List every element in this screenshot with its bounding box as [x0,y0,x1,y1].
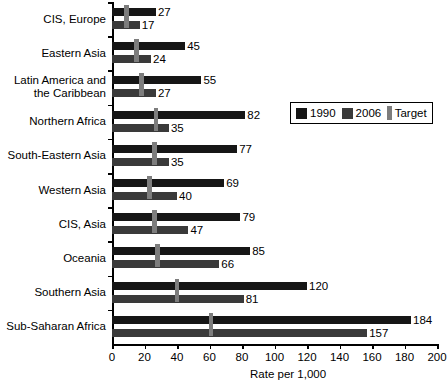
bar-1990: 85 [112,247,250,255]
category-row: CIS, Europe2717 [112,2,437,36]
bar-2006: 157 [112,329,367,337]
bar-value-1990: 79 [242,211,255,223]
category-label: South-Eastern Asia [0,139,106,173]
x-axis-tick-label: 200 [427,351,446,364]
x-axis-tick-label: 100 [265,351,284,364]
legend-item-target: Target [387,106,426,120]
category-label-line: Northern Africa [29,115,106,128]
category-label: Western Asia [0,173,106,207]
y-axis-tick [108,105,113,107]
category-row: Southern Asia12081 [112,276,437,310]
category-label-line: Sub-Saharan Africa [6,320,106,333]
x-axis-tick [242,344,244,349]
category-row: Oceania8566 [112,241,437,275]
x-axis-tick [145,344,147,349]
x-axis-tick [210,344,212,349]
category-label: Sub-Saharan Africa [0,310,106,344]
y-axis-tick [108,310,113,312]
category-label: Northern Africa [0,105,106,139]
category-row: Sub-Saharan Africa184157 [112,310,437,344]
category-row: South-Eastern Asia7735 [112,139,437,173]
target-marker [124,5,129,28]
bar-value-2006: 47 [190,224,203,236]
bar-value-1990: 85 [252,245,265,257]
category-label: CIS, Europe [0,2,106,36]
target-marker [139,73,144,96]
category-label-line: CIS, Asia [59,218,106,231]
category-label-line: Latin America and [14,74,106,87]
y-axis-tick [108,173,113,175]
category-label: Southern Asia [0,276,106,310]
legend-swatch-1990-icon [296,108,307,119]
target-marker [175,279,180,302]
bar-2006: 35 [112,158,169,166]
bar-2006: 40 [112,192,177,200]
x-axis-tick-label: 140 [330,351,349,364]
category-label-line: Eastern Asia [41,47,106,60]
category-row: Western Asia6940 [112,173,437,207]
bar-value-2006: 17 [142,19,155,31]
bar-value-1990: 55 [203,74,216,86]
x-axis-tick [340,344,342,349]
category-label: Latin America andthe Caribbean [0,70,106,104]
legend-item-1990: 1990 [296,107,336,120]
legend-label-1990: 1990 [310,107,336,120]
bar-2006: 47 [112,226,188,234]
bar-2006: 35 [112,124,169,132]
x-axis-tick [275,344,277,349]
y-axis-tick [108,139,113,141]
y-axis-tick [108,2,113,4]
bar-2006: 66 [112,260,219,268]
target-marker [134,39,139,62]
bar-value-1990: 77 [239,143,252,155]
category-label-line: CIS, Europe [43,13,106,26]
x-axis-tick [372,344,374,349]
target-marker [152,142,157,165]
bar-1990: 82 [112,111,245,119]
target-marker [154,108,159,131]
bar-1990: 120 [112,282,307,290]
y-axis-tick [108,276,113,278]
legend-item-2006: 2006 [342,107,382,120]
y-axis-tick [108,241,113,243]
bar-value-2006: 81 [246,293,259,305]
bar-value-2006: 27 [158,87,171,99]
x-axis-tick-label: 0 [109,351,115,364]
bar-value-1990: 45 [187,40,200,52]
x-axis-tick-label: 160 [362,351,381,364]
bar-1990: 27 [112,8,156,16]
bar-value-1990: 82 [247,109,260,121]
bar-1990: 69 [112,179,224,187]
category-row: Eastern Asia4524 [112,36,437,70]
bar-2006: 27 [112,89,156,97]
target-marker [147,176,152,199]
x-axis-tick-label: 120 [297,351,316,364]
y-axis-tick [108,36,113,38]
bar-value-2006: 35 [171,122,184,134]
target-marker [155,244,160,267]
category-label-line: Southern Asia [34,286,106,299]
y-axis-tick [108,207,113,209]
bar-value-2006: 66 [221,258,234,270]
target-marker [152,210,157,233]
x-axis-tick-label: 40 [171,351,184,364]
bar-2006: 24 [112,55,151,63]
bar-1990: 55 [112,76,201,84]
bar-value-1990: 69 [226,177,239,189]
x-axis-tick [177,344,179,349]
legend-label-2006: 2006 [356,107,382,120]
category-row: Latin America andthe Caribbean5527 [112,70,437,104]
bar-1990: 45 [112,42,185,50]
bar-value-2006: 40 [179,190,192,202]
chart-legend: 1990 2006 Target [290,102,433,124]
bar-value-2006: 157 [369,327,388,339]
bar-1990: 77 [112,145,237,153]
category-label-line: Oceania [63,252,106,265]
bar-1990: 184 [112,316,411,324]
bar-value-1990: 27 [158,6,171,18]
x-axis-tick-label: 180 [395,351,414,364]
category-label: Eastern Asia [0,36,106,70]
legend-swatch-target-icon [387,106,392,120]
legend-swatch-2006-icon [342,108,353,119]
